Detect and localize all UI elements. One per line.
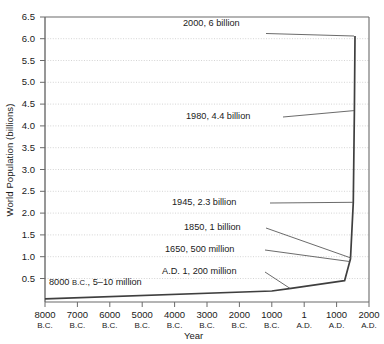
x-tick-year: 8000 [34, 309, 55, 320]
annotation-8000bc-era: B.C. [72, 278, 88, 287]
annotation-1945: 1945, 2.3 billion [172, 197, 236, 208]
y-tick-label: 2.5 [5, 186, 35, 196]
x-tick-year: 1000 [326, 309, 347, 320]
annotation-1850: 1850, 1 billion [184, 222, 241, 233]
plot-area [45, 17, 369, 302]
x-tick-label: 2000 A.D. [347, 309, 384, 331]
annotation-1980: 1980, 4.4 billion [186, 111, 250, 122]
annotation-1650: 1650, 500 million [165, 244, 234, 255]
x-tick-year: 5000 [132, 309, 153, 320]
y-tick-label: 6.5 [5, 12, 35, 22]
annotation-ad1: A.D. 1, 200 million [162, 266, 237, 277]
x-tick-year: 4000 [164, 309, 185, 320]
y-tick-label: 1.5 [5, 230, 35, 240]
x-tick-year: 6000 [99, 309, 120, 320]
x-tick-year: 1000 [261, 309, 282, 320]
annotation-2000: 2000, 6 billion [183, 18, 240, 29]
y-tick-label: 3.5 [5, 143, 35, 153]
y-tick-label: 3.0 [5, 165, 35, 175]
x-tick-era: A.D. [347, 320, 384, 331]
chart-figure: World Population (billions) 6.5 6.0 5.5 … [0, 0, 384, 344]
annotation-8000bc-year: 8000 [49, 277, 72, 287]
x-tick-year: 7000 [67, 309, 88, 320]
x-tick-year: 2000 [358, 309, 379, 320]
x-tick-marks [45, 302, 369, 307]
annotation-8000bc: 8000 B.C., 5–10 million [49, 277, 142, 288]
chart-canvas [0, 0, 384, 344]
x-tick-year: 3000 [196, 309, 217, 320]
y-tick-label: 0.5 [5, 274, 35, 284]
y-tick-label: 5.5 [5, 56, 35, 66]
y-tick-label: 4.5 [5, 99, 35, 109]
y-tick-label: 2.0 [5, 208, 35, 218]
y-tick-label: 5.0 [5, 77, 35, 87]
x-axis-title: Year [184, 330, 203, 341]
x-tick-year: 2000 [229, 309, 250, 320]
y-tick-label: 6.0 [5, 34, 35, 44]
y-tick-marks [40, 17, 45, 279]
x-tick-year: 1 [302, 309, 307, 320]
annotation-8000bc-value: , 5–10 million [88, 277, 142, 287]
y-tick-label: 1.0 [5, 252, 35, 262]
y-tick-label: 4.0 [5, 121, 35, 131]
